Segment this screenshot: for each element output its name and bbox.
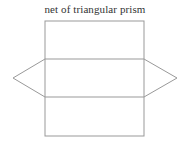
prism-net-drawing [0,0,186,149]
net-outer-rectangle [45,21,144,136]
left-triangle-face [13,59,45,97]
right-triangle-face [144,59,177,97]
